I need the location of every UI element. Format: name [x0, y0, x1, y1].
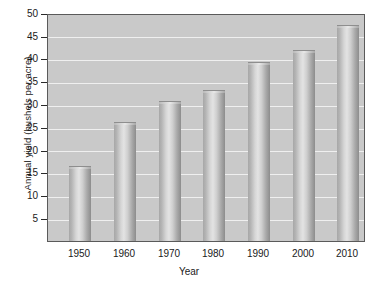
y-tick-label-30: 30 — [0, 100, 38, 110]
bar-cap — [114, 123, 136, 125]
bar-chart: Annual yield (bushels per acre) 50 45 40… — [0, 0, 378, 282]
bar-cap — [159, 102, 181, 104]
y-tick-label-20: 20 — [0, 146, 38, 156]
y-tick-label-45: 45 — [0, 32, 38, 42]
bar-cap — [337, 26, 359, 28]
bar-1950 — [69, 166, 91, 241]
x-tick-label-2010: 2010 — [317, 249, 377, 259]
bar-2010 — [337, 25, 359, 241]
bar-cap — [69, 167, 91, 169]
y-tick-label-5: 5 — [0, 214, 38, 224]
gridline-45 — [48, 37, 364, 38]
bar-2000 — [293, 50, 315, 241]
plot-area — [47, 14, 365, 242]
y-tick-label-25: 25 — [0, 123, 38, 133]
y-tick-label-35: 35 — [0, 77, 38, 87]
bar-1970 — [159, 101, 181, 241]
y-tick-label-50: 50 — [0, 9, 38, 19]
bar-1990 — [248, 62, 270, 241]
bar-1980 — [203, 90, 225, 241]
y-tick-label-40: 40 — [0, 54, 38, 64]
bar-cap — [293, 51, 315, 53]
bar-1960 — [114, 122, 136, 241]
bar-cap — [248, 63, 270, 65]
gridline-35 — [48, 83, 364, 84]
x-axis-title: Year — [0, 266, 378, 277]
y-tick-label-15: 15 — [0, 168, 38, 178]
y-tick-label-10: 10 — [0, 191, 38, 201]
bar-cap — [203, 91, 225, 93]
gridline-40 — [48, 60, 364, 61]
